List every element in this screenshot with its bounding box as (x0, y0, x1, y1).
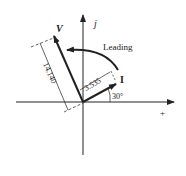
leading-label: Leading (103, 42, 133, 52)
vector-v (54, 36, 83, 102)
v-magnitude-dimension (31, 37, 83, 112)
horizontal-axis-label: + (160, 108, 165, 118)
leading-arc (67, 50, 118, 70)
vertical-axis-label: j (92, 18, 97, 29)
angle-label: 30° (112, 92, 123, 101)
phasor-diagram: j + V I Leading 30° 14.140 3.535 (0, 0, 186, 176)
i-label: I (120, 74, 124, 85)
v-magnitude-label: 14.140 (41, 61, 58, 85)
angle-arc (108, 88, 110, 102)
v-label: V (56, 23, 64, 34)
